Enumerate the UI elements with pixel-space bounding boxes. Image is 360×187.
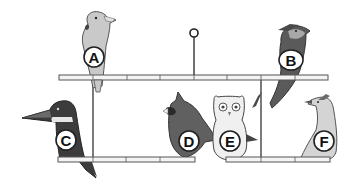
bottom-left-perch (58, 157, 195, 162)
label-c: C (56, 130, 76, 150)
label-a-text: A (89, 49, 100, 66)
kingfisher-eye-icon (57, 108, 59, 110)
label-b-text: B (286, 52, 297, 69)
label-f-text: F (319, 133, 328, 150)
crested-bird-eye-icon (295, 30, 297, 32)
label-b: B (279, 50, 303, 70)
cardinal-beak-icon (163, 108, 168, 114)
roadrunner-icon (300, 97, 337, 160)
label-d-text: D (184, 133, 195, 150)
bird-mobile-diagram: A B C D E F (0, 0, 360, 187)
hanger-ring-icon (190, 29, 198, 37)
owl-wing-icon (246, 134, 258, 142)
hanger (190, 29, 198, 76)
cockatoo-tail-icon (94, 80, 102, 92)
kingfisher-beak-icon (22, 110, 52, 118)
label-e-text: E (225, 133, 235, 150)
label-a: A (84, 47, 104, 67)
bird-e-owl (213, 96, 258, 160)
kingfisher-collar-icon (51, 117, 73, 122)
top-perch (59, 75, 328, 80)
label-e: E (220, 131, 240, 151)
label-d: D (179, 131, 199, 151)
label-f: F (314, 131, 334, 151)
bottom-right-perch (226, 157, 330, 162)
roadrunner-eye-icon (317, 101, 319, 103)
label-c-text: C (61, 132, 72, 149)
cockatoo-eye-icon (95, 17, 97, 19)
